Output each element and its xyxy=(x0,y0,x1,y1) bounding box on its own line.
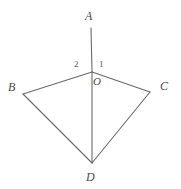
angle-label-1: 1 xyxy=(99,60,104,69)
segment-b-d xyxy=(23,94,92,163)
point-label-d: D xyxy=(86,171,95,183)
point-label-c: C xyxy=(160,80,168,92)
angle-label-2: 2 xyxy=(74,60,79,69)
geometry-figure: A B C D O 1 2 xyxy=(0,0,181,189)
point-label-a: A xyxy=(85,10,92,22)
point-label-b: B xyxy=(8,81,15,93)
geometry-diagram-canvas xyxy=(0,0,181,189)
segment-o-b xyxy=(23,72,92,94)
segment-c-d xyxy=(92,92,150,163)
point-label-o: O xyxy=(93,76,101,87)
segment-a-o xyxy=(91,28,92,72)
